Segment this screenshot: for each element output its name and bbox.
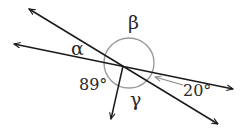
- label-alpha: α: [71, 39, 84, 58]
- label-angle-20: 20°: [183, 83, 211, 99]
- diagram-canvas: [0, 0, 248, 132]
- downward-ray: [111, 66, 123, 119]
- label-angle-89: 89°: [79, 77, 107, 93]
- label-gamma: γ: [130, 90, 141, 109]
- label-beta: β: [128, 13, 139, 32]
- angle-diagram: β α 89° γ 20°: [0, 0, 248, 132]
